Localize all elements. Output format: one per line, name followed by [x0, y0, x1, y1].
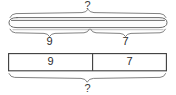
- top-bar: [9, 18, 167, 30]
- top-part-label-right: 7: [122, 35, 128, 47]
- bottom-cell-label-left: 9: [47, 55, 53, 67]
- bottom-cell-label-right: 7: [126, 55, 132, 67]
- bottom-bar: [9, 54, 167, 71]
- top-total-label: ?: [84, 0, 90, 11]
- bar-model-diagram: ? 9 7 9 7 ?: [0, 0, 176, 95]
- top-part-label-left: 9: [46, 35, 52, 47]
- bottom-total-label: ?: [84, 82, 90, 94]
